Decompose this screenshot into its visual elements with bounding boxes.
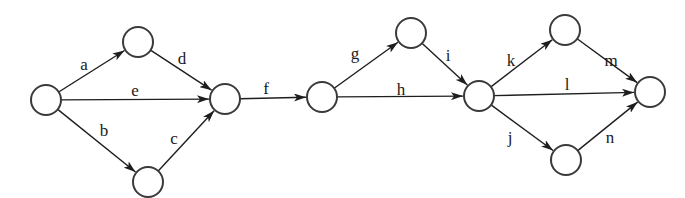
network-diagram-svg: aebdcfghikljmn [0, 0, 685, 198]
nodes-layer [31, 15, 665, 197]
edge-label-h: h [397, 80, 406, 99]
node-n7 [464, 81, 494, 111]
edge-label-f: f [263, 79, 269, 98]
edge-j-arrow [491, 105, 553, 151]
edge-label-n: n [606, 128, 615, 147]
edge-label-c: c [170, 129, 178, 148]
edge-label-l: l [565, 75, 570, 94]
node-n6 [396, 18, 426, 48]
edge-a-arrow [59, 51, 125, 93]
edge-label-k: k [507, 51, 516, 70]
node-n3 [133, 167, 163, 197]
edge-g-arrow [334, 42, 398, 88]
edge-label-m: m [604, 51, 617, 70]
edge-label-a: a [80, 55, 88, 74]
node-n1 [31, 85, 61, 115]
node-n2 [123, 27, 153, 57]
edge-label-i: i [446, 46, 451, 65]
node-n9 [551, 145, 581, 175]
edge-label-j: j [507, 128, 513, 147]
node-n4 [210, 84, 240, 114]
edge-label-g: g [351, 44, 360, 63]
network-diagram: aebdcfghikljmn [0, 0, 685, 198]
node-n8 [550, 15, 580, 45]
node-n5 [307, 82, 337, 112]
edge-label-d: d [178, 49, 187, 68]
edge-k-arrow [491, 40, 552, 87]
edge-c-arrow [158, 111, 214, 171]
edge-b-arrow [58, 109, 136, 172]
edges-layer [58, 39, 638, 172]
labels-layer: aebdcfghikljmn [80, 44, 617, 148]
edge-f-arrow [240, 97, 306, 98]
edge-label-e: e [131, 81, 139, 100]
edge-label-b: b [100, 121, 109, 140]
node-n10 [635, 77, 665, 107]
